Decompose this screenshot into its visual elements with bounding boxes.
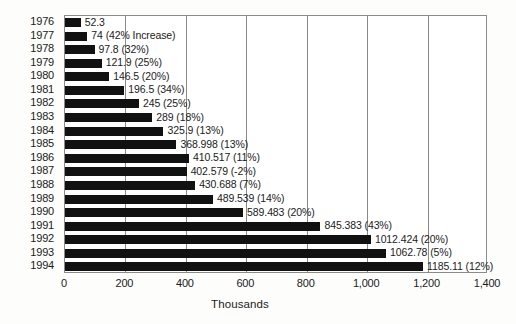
bar (65, 167, 187, 176)
bar (65, 208, 243, 217)
bar-value-label: 146.5 (20%) (113, 70, 169, 83)
bar-row: 1185.11 (12%) (65, 260, 486, 274)
y-axis-label: 1989 (30, 192, 54, 206)
y-axis-label: 1994 (30, 259, 54, 273)
x-axis-tick-label: 800 (297, 277, 315, 289)
bar (65, 59, 102, 68)
bar-row: 289 (18%) (65, 111, 486, 125)
y-axis-label: 1992 (30, 232, 54, 246)
bar (65, 72, 109, 81)
y-axis-label: 1976 (30, 15, 54, 29)
bar-chart: 1976197719781979198019811982198319841985… (0, 0, 516, 324)
bar (65, 262, 423, 271)
bar-row: 146.5 (20%) (65, 70, 486, 84)
bar-rows: 52.374 (42% Increase)97.8 (32%)121.9 (25… (65, 16, 486, 272)
bar-value-label: 74 (42% Increase) (91, 29, 175, 42)
x-axis-tick-label: 1,000 (353, 277, 380, 289)
bar-value-label: 845.383 (43%) (324, 219, 392, 232)
x-axis-tick-label: 600 (236, 277, 254, 289)
bar-row: 1062.78 (5%) (65, 247, 486, 261)
bar-row: 52.3 (65, 16, 486, 30)
bar (65, 222, 320, 231)
bar-value-label: 52.3 (85, 16, 105, 29)
bar (65, 181, 195, 190)
bar-row: 410.517 (11%) (65, 152, 486, 166)
x-axis-tick-label: 1,400 (474, 277, 501, 289)
y-axis-label: 1990 (30, 205, 54, 219)
bar-value-label: 289 (18%) (156, 111, 204, 124)
bar-value-label: 196.5 (34%) (128, 83, 184, 96)
y-axis-category-labels: 1976197719781979198019811982198319841985… (0, 15, 60, 273)
y-axis-label: 1993 (30, 246, 54, 260)
x-axis-tick-label: 1,200 (413, 277, 440, 289)
bar-row: 402.579 (-2%) (65, 165, 486, 179)
bar-value-label: 410.517 (11%) (193, 151, 260, 164)
bar-value-label: 589.483 (20%) (247, 206, 315, 219)
bar (65, 99, 139, 108)
y-axis-label: 1982 (30, 96, 54, 110)
bar-value-label: 1012.424 (20%) (375, 233, 448, 246)
bar-row: 325.9 (13%) (65, 125, 486, 139)
bar-row: 489.539 (14%) (65, 193, 486, 207)
bar-value-label: 1062.78 (5%) (390, 246, 452, 259)
y-axis-label: 1979 (30, 56, 54, 70)
bar (65, 140, 176, 149)
y-axis-label: 1980 (30, 69, 54, 83)
bar (65, 32, 87, 41)
bar-value-label: 489.539 (14%) (217, 192, 285, 205)
y-axis-label: 1977 (30, 29, 54, 43)
bar (65, 249, 386, 258)
bar-row: 368.998 (13%) (65, 138, 486, 152)
bar (65, 113, 152, 122)
bar (65, 86, 124, 95)
bar-value-label: 325.9 (13%) (167, 124, 223, 137)
x-axis-title: Thousands (0, 298, 516, 310)
bar-row: 589.483 (20%) (65, 206, 486, 220)
x-axis-tick-label: 0 (61, 277, 67, 289)
y-axis-label: 1986 (30, 151, 54, 165)
x-axis-tick-label: 400 (176, 277, 194, 289)
bar-value-label: 121.9 (25%) (106, 56, 162, 69)
bar-value-label: 402.579 (-2%) (191, 165, 256, 178)
bar-value-label: 97.8 (32%) (99, 43, 149, 56)
bar-value-label: 245 (25%) (143, 97, 191, 110)
bar-row: 121.9 (25%) (65, 57, 486, 71)
bar (65, 154, 189, 163)
y-axis-label: 1984 (30, 124, 54, 138)
bar-row: 430.688 (7%) (65, 179, 486, 193)
bar-row: 1012.424 (20%) (65, 233, 486, 247)
y-axis-label: 1985 (30, 137, 54, 151)
bar-row: 245 (25%) (65, 97, 486, 111)
y-axis-label: 1987 (30, 164, 54, 178)
bar (65, 45, 95, 54)
y-axis-label: 1981 (30, 83, 54, 97)
plot-area: 52.374 (42% Increase)97.8 (32%)121.9 (25… (64, 15, 487, 273)
bar (65, 18, 81, 27)
y-axis-label: 1983 (30, 110, 54, 124)
bar-row: 97.8 (32%) (65, 43, 486, 57)
y-axis-label: 1988 (30, 178, 54, 192)
bar (65, 235, 371, 244)
bar-value-label: 368.998 (13%) (180, 138, 248, 151)
bar (65, 127, 163, 136)
bar-row: 196.5 (34%) (65, 84, 486, 98)
y-axis-label: 1991 (30, 219, 54, 233)
x-axis-tick-label: 200 (116, 277, 134, 289)
bar-value-label: 430.688 (7%) (199, 178, 261, 191)
bar-row: 74 (42% Increase) (65, 30, 486, 44)
y-axis-label: 1978 (30, 42, 54, 56)
bar-value-label: 1185.11 (12%) (427, 260, 493, 273)
bar-row: 845.383 (43%) (65, 220, 486, 234)
bar (65, 195, 213, 204)
